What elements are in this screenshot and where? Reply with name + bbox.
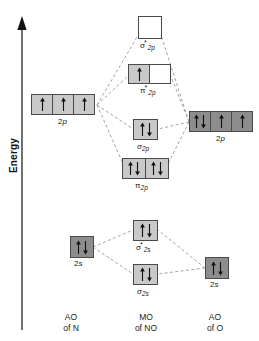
spin-single-up	[218, 114, 225, 129]
orbital-subscript: 2p	[142, 145, 149, 152]
column-caption-ao-o: AO of O	[190, 312, 240, 333]
spin-up-arrow	[39, 97, 46, 112]
pi-symbol: π	[135, 181, 141, 190]
column-caption-mo-no: MO of NO	[121, 312, 171, 333]
spin-down-arrow	[82, 240, 89, 255]
orbital-pi-star-2p[interactable]	[128, 64, 171, 84]
orbital-box[interactable]	[128, 64, 150, 84]
caption-line-2: of O	[190, 323, 240, 334]
orbital-box[interactable]	[133, 220, 158, 241]
spin-pair	[193, 114, 207, 129]
spin-up-arrow	[127, 161, 134, 176]
orbital-subscript: 2s	[142, 290, 149, 297]
orbital-box[interactable]	[231, 111, 253, 132]
spin-pair	[75, 240, 89, 255]
spin-down-arrow	[217, 261, 224, 276]
subshell-letter: p	[62, 117, 66, 126]
spin-pair	[210, 261, 224, 276]
spin-up-arrow	[75, 240, 82, 255]
orbital-sigma-2s[interactable]	[133, 264, 158, 285]
column-caption-ao-n: AO of N	[46, 312, 96, 333]
orbital-label-o-2p: 2p	[216, 134, 225, 143]
spin-up-arrow	[139, 122, 146, 137]
spin-down-arrow	[146, 223, 153, 238]
orbital-sigma-2p[interactable]	[133, 119, 158, 140]
orbital-label-o-2s: 2s	[210, 280, 218, 289]
antibonding-star: *	[145, 84, 148, 91]
mo-diagram-nitric-oxide: Energy σ*2p π*2p	[0, 0, 259, 341]
orbital-subscript: 2p	[148, 44, 155, 51]
caption-line-1: MO	[121, 312, 171, 323]
spin-up-arrow	[81, 97, 88, 112]
orbital-label-sigma-2s: σ2s	[137, 287, 149, 296]
antibonding-star: *	[140, 241, 143, 248]
spin-pair	[150, 161, 164, 176]
orbital-label-pi-2p: π2p	[135, 181, 148, 190]
orbital-box[interactable]	[73, 94, 95, 115]
spin-pair	[139, 223, 153, 238]
orbital-box[interactable]	[138, 16, 162, 39]
orbital-label-sigma-2p: σ2p	[137, 142, 149, 151]
orbital-subscript: 2p	[148, 89, 155, 96]
antibonding-star: *	[144, 39, 147, 46]
spin-down-arrow	[134, 161, 141, 176]
subshell-letter: s	[78, 259, 82, 268]
orbital-box[interactable]	[145, 158, 169, 179]
orbital-label-n-2s: 2s	[74, 259, 82, 268]
spin-up-arrow	[139, 267, 146, 282]
spin-pair	[139, 267, 153, 282]
orbital-box[interactable]	[149, 64, 171, 84]
orbital-box[interactable]	[205, 257, 229, 279]
orbital-box[interactable]	[133, 264, 158, 285]
orbital-box[interactable]	[189, 111, 211, 132]
orbital-box[interactable]	[70, 236, 94, 258]
spin-down-arrow	[146, 122, 153, 137]
spin-down-arrow	[157, 161, 164, 176]
subshell-letter: s	[214, 280, 218, 289]
spin-single-up	[39, 97, 46, 112]
orbital-label-sigma-star-2s: σ*2s	[136, 243, 151, 252]
caption-line-2: of NO	[121, 323, 171, 334]
orbital-label-sigma-star-2p: σ*2p	[140, 41, 155, 50]
orbital-sigma-star-2p[interactable]	[138, 16, 162, 39]
spin-pair	[127, 161, 141, 176]
spin-down-arrow	[200, 114, 207, 129]
spin-down-arrow	[146, 267, 153, 282]
spin-up-arrow	[210, 261, 217, 276]
caption-line-1: AO	[190, 312, 240, 323]
orbital-n-2s[interactable]	[70, 236, 94, 258]
orbital-box[interactable]	[122, 158, 146, 179]
spin-single-up	[81, 97, 88, 112]
spin-up-arrow	[150, 161, 157, 176]
orbital-sigma-star-2s[interactable]	[133, 220, 158, 241]
caption-line-1: AO	[46, 312, 96, 323]
spin-single-up	[136, 67, 143, 82]
orbital-o-2s[interactable]	[205, 257, 229, 279]
spin-up-arrow	[60, 97, 67, 112]
spin-up-arrow	[139, 223, 146, 238]
caption-line-2: of N	[46, 323, 96, 334]
spin-up-arrow	[193, 114, 200, 129]
orbital-n-2p[interactable]	[31, 94, 95, 115]
spin-single-up	[60, 97, 67, 112]
orbital-o-2p[interactable]	[189, 111, 253, 132]
orbital-box[interactable]	[133, 119, 158, 140]
subshell-letter: p	[220, 134, 224, 143]
orbital-label-pi-star-2p: π*2p	[140, 86, 156, 95]
orbital-subscript: 2p	[141, 184, 148, 191]
orbital-box[interactable]	[31, 94, 53, 115]
energy-axis-label: Energy	[8, 126, 19, 186]
spin-pair	[139, 122, 153, 137]
orbital-pi-2p[interactable]	[122, 158, 169, 179]
orbital-subscript: 2s	[144, 246, 151, 253]
spin-up-arrow	[218, 114, 225, 129]
energy-axis-arrow	[17, 16, 26, 330]
spin-single-up	[239, 114, 246, 129]
spin-up-arrow	[239, 114, 246, 129]
orbital-label-n-2p: 2p	[58, 117, 67, 126]
orbital-box[interactable]	[210, 111, 232, 132]
orbital-box[interactable]	[52, 94, 74, 115]
spin-up-arrow	[136, 67, 143, 82]
